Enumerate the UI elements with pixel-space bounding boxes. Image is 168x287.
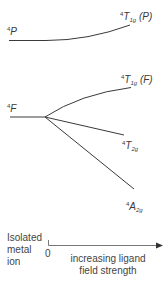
level-line-4T1g-F (45, 88, 131, 118)
term-label-4P: 4P (7, 27, 17, 37)
term-label-4T2g: 4T2g (122, 141, 138, 151)
level-line-4A2g (45, 117, 134, 189)
term-label-4T1g-F: 4T1g (F) (121, 75, 153, 85)
isolated-metal-ion-label: Isolated metal ion (7, 232, 42, 268)
axis-arrowhead-icon (156, 243, 163, 249)
axis-caption: increasing ligand field strength (58, 253, 158, 277)
level-line-4P-to-4T1g-P (9, 25, 130, 41)
term-label-4A2g: 4A2g (126, 202, 143, 212)
term-label-4T1g-P: 4T1g (P) (120, 12, 152, 22)
term-label-4F: 4F (7, 104, 16, 114)
energy-level-diagram: 4P 4F 4T1g (P) 4T1g (F) 4T2g 4A2g Isolat… (0, 0, 168, 287)
axis-origin-label: 0 (45, 248, 51, 260)
